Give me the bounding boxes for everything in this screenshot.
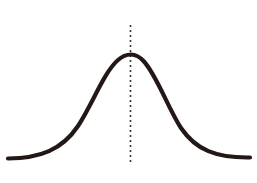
normal-distribution-plot xyxy=(0,0,257,183)
figure-container: 規分布) xyxy=(0,0,257,183)
